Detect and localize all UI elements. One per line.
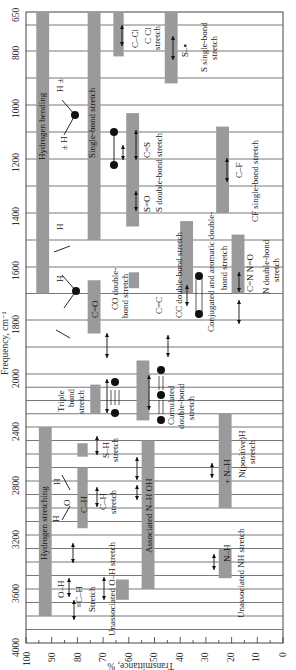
band-label-ch: C–H [80,496,89,513]
band-label-ccl: C–Cl [131,29,140,48]
band-desc-ech: Stretch [88,587,97,613]
arrow-up-icon [121,145,125,149]
band-desc-triple-3: stretch [77,390,86,414]
band-desc-cc: CC double-bond stretch [175,232,184,318]
y-tick-label: 3200 [12,530,22,549]
atom-dot-icon [157,416,165,424]
arrow-up-icon [102,577,106,581]
arrow-up-icon [105,333,109,337]
band-bar [116,580,129,600]
band-desc-co-2: bond stretch [121,274,130,318]
arrow-down-icon [71,559,75,563]
band-desc-n-double-1: N double-bond [262,240,271,294]
band-label-cc: C=C [155,297,164,314]
arrow-up-icon [95,436,99,440]
bond-line [56,330,70,338]
band-label-cnno: C=N N=O [246,254,255,292]
band-desc-unassoc-oh: Unassociated O–H stretch [108,542,117,636]
band-desc-conj-1: Conjugated and aromatic double- [207,212,216,332]
h-pm-top: H ± [56,78,65,92]
x-tick-label: 0 [279,652,289,657]
band-label-nh: N–H [223,545,232,563]
y-tick-label: 1800 [12,315,22,334]
bond-line [62,475,70,490]
band-desc-sh-2: stretch [111,438,120,462]
band-label-cs: C=S [143,142,152,158]
arrow-up-icon [105,379,109,383]
x-tick-label: 20 [227,653,237,663]
x-tick-label: 90 [48,653,58,663]
arrow-down-icon [72,616,76,620]
band-desc-n-double-2: stretch [272,258,281,282]
bond-line [54,246,70,252]
arrow-up-icon [95,487,99,491]
band-label-oh: O–H [57,581,66,599]
x-tick-label: 40 [176,653,186,663]
arrow-down-icon [102,596,106,600]
band-desc-triple-2: bond [67,389,76,407]
y-tick-label: 1000 [12,99,22,118]
band-desc-cf: CF single-bond stretch [251,140,260,222]
arrow-down-icon [105,409,109,413]
y-tick-label: 1400 [12,207,22,226]
arrow-down-icon [105,354,109,358]
arrow-down-icon [210,474,214,478]
band-bar [126,113,139,159]
hoh-o: O [63,500,72,507]
band-label-assoc: Associated N–H OH [145,479,154,554]
arrow-up-icon [166,335,170,339]
y-axis-title: Frequency, cm⁻¹ [1,311,11,375]
arrow-up-icon [135,457,139,461]
y-tick-label: 800 [12,46,22,60]
band-desc-s-single-1: S single-bond [200,22,209,72]
x-tick-label: 30 [201,653,211,663]
band-desc-co-1: CO double- [111,268,120,310]
h-pm-bottom: ± H [60,136,69,150]
arrow-up-icon [135,485,139,489]
arrow-down-icon [135,496,139,500]
band-label-so: S=O [143,195,152,212]
band-desc-ch-2: stretch [109,490,118,514]
arrow-up-icon [67,578,71,582]
h-label-1: H [56,224,65,231]
arrow-up-icon [71,543,75,547]
hoh-h1: H [52,516,61,523]
band-bar [77,443,87,457]
band-desc-ccl-2: stretch [153,26,162,50]
band-bar [129,272,139,288]
band-label-hydrogen-bending: Hydrogen bending [38,93,47,160]
atom-dot-icon [110,128,118,136]
y-tick-label: 3600 [12,584,22,603]
x-axis-title-text: Transmittance, % [107,661,174,670]
atom-dot-icon [111,378,119,386]
band-label-co: C=O [91,300,100,318]
arrow-up-icon [212,554,216,558]
x-tick-label: 10 [252,653,262,663]
band-bar [90,385,100,414]
band-label-s-single: S–▪ [181,44,190,57]
band-bar [137,361,150,421]
atom-dot-icon [111,409,119,417]
band-bar [126,159,139,227]
y-tick-label: 2800 [12,476,22,495]
atom-dot-icon [157,391,165,399]
band-desc-s-single-2: stretch [210,36,219,60]
atom-dot-icon [110,161,118,169]
band-label-single-bond: Single-bond stretch [88,88,97,158]
ir-correlation-chart: 650 800 1000 1200 1400 1600 1800 2000 24… [0,0,296,670]
y-tick-label: 1200 [12,153,22,172]
band-bar [165,12,178,83]
y-tick-label: 1600 [12,261,22,280]
band-label-ech: ≡C–H [75,586,84,608]
band-label-npos: + N–H [223,459,232,484]
arrow-down-icon [237,320,241,324]
arrow-down-icon [212,566,216,570]
band-label-cf: C–F [235,162,244,178]
arrow-up-icon [237,300,241,304]
y-tick-label: 650 [12,8,22,22]
band-desc-triple-1: Triple [57,390,66,412]
band-desc-npos-1: N(positive)H [238,431,247,479]
band-desc-cumul-3: stretch [187,396,196,420]
arrow-down-icon [67,593,71,597]
h-label-2: H [56,276,65,283]
